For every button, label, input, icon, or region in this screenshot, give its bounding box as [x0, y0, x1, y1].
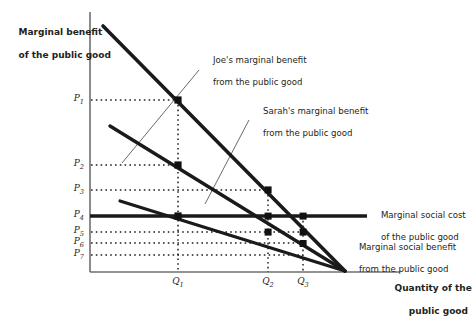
x-tick-q2-sub: 2 — [270, 281, 274, 289]
annotation-msb-line2: from the public good — [359, 264, 449, 274]
leader-sarah — [205, 120, 249, 204]
x-tick-q3-sub: 3 — [305, 281, 309, 289]
marker-q1-p2 — [174, 161, 181, 168]
x-tick-q1-sub: 1 — [180, 281, 184, 289]
marker-q3-p6 — [300, 240, 307, 247]
x-tick-q2-base: Q — [262, 276, 269, 286]
annotation-marginal-social-benefit: Marginal social benefit from the public … — [348, 231, 470, 286]
y-axis-title-line1: Marginal benefit — [19, 27, 103, 37]
x-axis-title-line2: public good — [409, 306, 468, 316]
x-tick-q3: Q3 — [289, 276, 317, 289]
y-tick-p7: P7 — [56, 248, 84, 261]
y-tick-p3-sub: 3 — [80, 188, 84, 196]
y-tick-p3: P3 — [56, 183, 84, 196]
marker-q1-p1 — [174, 96, 181, 103]
y-axis-title-line2: of the public good — [19, 50, 111, 60]
y-tick-p2: P2 — [56, 158, 84, 171]
annotation-sarah-line1: Sarah's marginal benefit — [263, 106, 369, 116]
annotation-sarah: Sarah's marginal benefit from the public… — [252, 95, 412, 150]
annotation-msb-line1: Marginal social benefit — [359, 242, 456, 252]
x-tick-q2: Q2 — [254, 276, 282, 289]
x-tick-q3-base: Q — [297, 276, 304, 286]
marker-q3-p4 — [300, 213, 307, 220]
y-axis-title: Marginal benefit of the public good — [6, 16, 102, 73]
marker-q2-p5 — [265, 229, 272, 236]
y-tick-p1: P1 — [56, 93, 84, 106]
y-tick-p2-sub: 2 — [80, 163, 84, 171]
annotation-joe-line2: from the public good — [213, 77, 303, 87]
y-tick-p1-sub: 1 — [80, 98, 84, 106]
x-tick-q1-base: Q — [172, 276, 179, 286]
marker-q2-p4 — [265, 213, 272, 220]
marker-q1-p4 — [174, 212, 181, 219]
y-tick-p4-sub: 4 — [80, 214, 84, 222]
annotation-msc-line1: Marginal social cost — [381, 210, 466, 220]
y-tick-p4: P4 — [56, 209, 84, 222]
marker-q3-p5 — [300, 229, 307, 236]
annotation-joe-line1: Joe's marginal benefit — [213, 55, 307, 65]
x-tick-q1: Q1 — [164, 276, 192, 289]
annotation-sarah-line2: from the public good — [263, 128, 353, 138]
annotation-joe: Joe's marginal benefit from the public g… — [202, 44, 352, 99]
y-tick-p7-sub: 7 — [80, 253, 84, 261]
y-tick-p6: P6 — [56, 236, 84, 249]
marker-q2-p3 — [265, 186, 272, 193]
